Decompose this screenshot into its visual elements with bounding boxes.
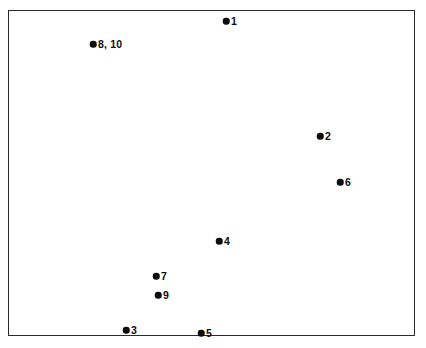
data-point-marker: [90, 41, 97, 48]
data-point-marker: [337, 179, 344, 186]
plot-frame-border: [8, 10, 415, 336]
data-point-marker: [223, 18, 230, 25]
data-point-label: 4: [224, 236, 230, 247]
data-point-marker: [153, 273, 160, 280]
data-point-label: 5: [206, 328, 212, 339]
data-point-label: 3: [131, 325, 137, 336]
data-point-label: 2: [325, 131, 331, 142]
scatter-plot-figure: 18, 102647935: [0, 0, 426, 348]
data-point-label: 1: [231, 16, 237, 27]
data-point-marker: [123, 327, 130, 334]
data-point-label: 7: [161, 271, 167, 282]
data-point-label: 9: [163, 290, 169, 301]
data-point-marker: [317, 133, 324, 140]
data-point-label: 8, 10: [98, 39, 122, 50]
data-point-marker: [216, 238, 223, 245]
data-point-marker: [155, 292, 162, 299]
data-point-label: 6: [345, 177, 351, 188]
data-point-marker: [198, 330, 205, 337]
